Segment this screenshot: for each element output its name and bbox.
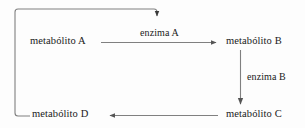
node-label-metabolito-c: metabólito C: [226, 109, 282, 120]
node-label-metabolito-b: metabólito B: [226, 36, 282, 47]
arrow-feedback-d-to-enzima-a: [15, 9, 157, 116]
edge-label-enzima-a: enzima A: [140, 28, 179, 38]
node-label-metabolito-d: metabólito D: [32, 109, 88, 120]
metabolic-pathway-diagram: metabólito A metabólito B metabólito C m…: [0, 0, 305, 128]
node-label-metabolito-a: metabólito A: [30, 36, 86, 47]
edge-label-enzima-b: enzima B: [247, 72, 286, 82]
